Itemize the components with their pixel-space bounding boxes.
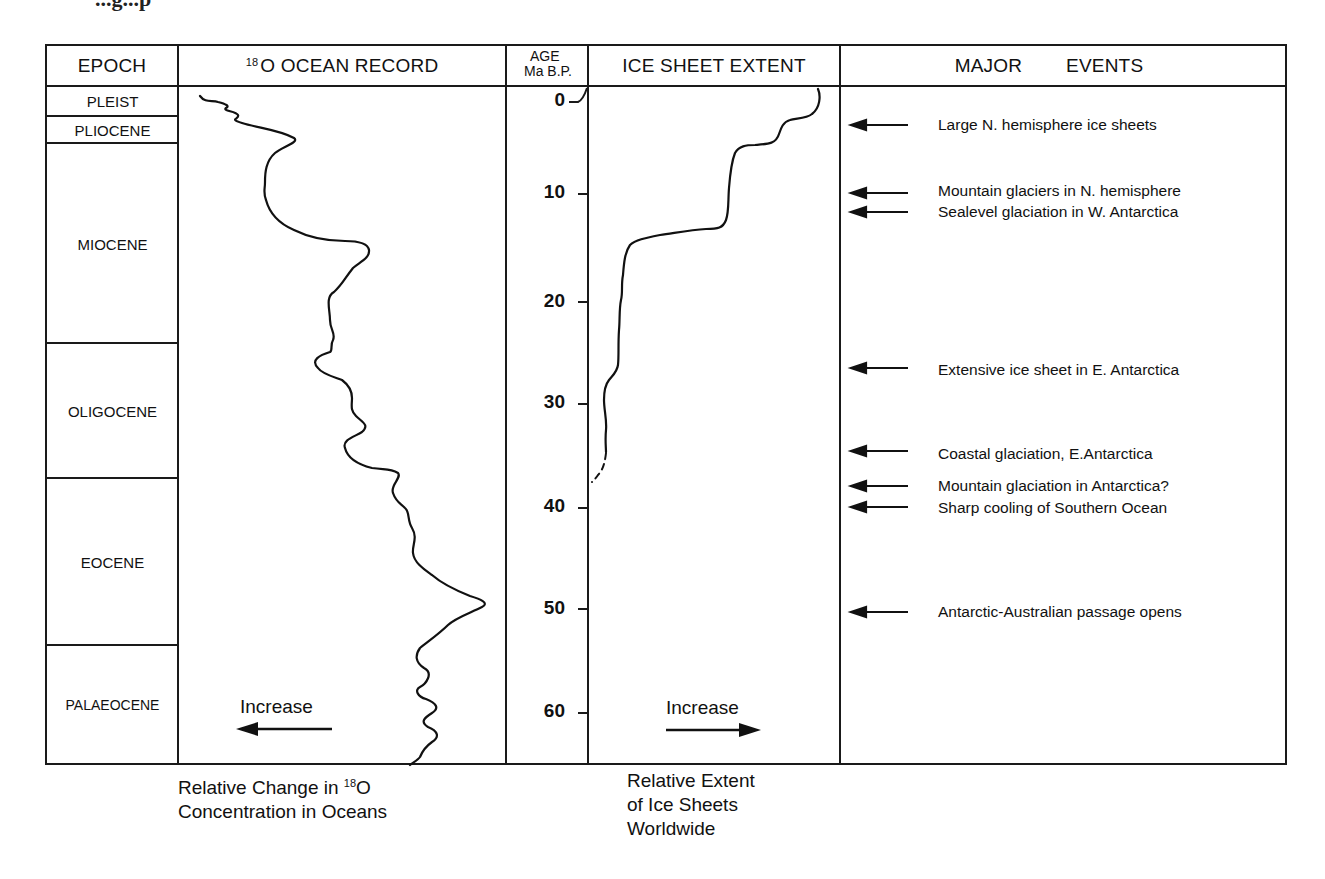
ice-caption-line1: Relative Extent: [627, 769, 755, 793]
ocean-caption: Relative Change in 18O Concentration in …: [178, 771, 387, 824]
caption-sup: 18: [344, 777, 356, 789]
ice-increase-arrow-icon: [0, 0, 1325, 879]
ocean-caption-line2: Concentration in Oceans: [178, 800, 387, 824]
caption-text: Relative Change in: [178, 777, 344, 798]
ice-caption-line2: of Ice Sheets: [627, 793, 755, 817]
ice-caption-line3: Worldwide: [627, 817, 755, 841]
ocean-caption-line1: Relative Change in 18O: [178, 771, 387, 800]
caption-text: O: [356, 777, 371, 798]
ice-caption: Relative Extent of Ice Sheets Worldwide: [627, 769, 755, 841]
